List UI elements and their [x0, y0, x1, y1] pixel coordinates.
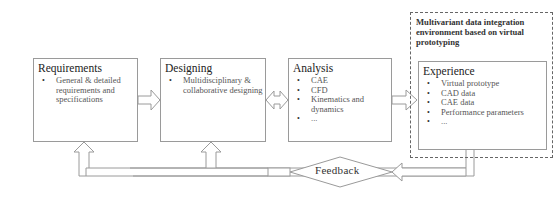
list-item: ...	[297, 114, 391, 124]
list-item: Kinematics and dynamics	[297, 95, 391, 114]
arrow-feedback-to-designing	[201, 142, 221, 168]
arrow-feedback-to-requirements	[74, 142, 94, 176]
experience-box: Experience Virtual prototype CAD data CA…	[418, 61, 547, 150]
arrow-requirements-to-designing	[138, 90, 160, 110]
analysis-box: Analysis CAE CFD Kinematics and dynamics…	[288, 58, 392, 142]
feedback-tail	[268, 168, 290, 176]
requirements-list: General & detailed requirements and spec…	[34, 76, 137, 105]
experience-title: Experience	[423, 65, 546, 78]
requirements-title: Requirements	[38, 62, 137, 75]
list-item: Multidisciplinary & collaborative design…	[169, 76, 265, 95]
list-item: ...	[427, 117, 546, 127]
feedback-label: Feedback	[315, 164, 360, 176]
requirements-box: Requirements General & detailed requirem…	[33, 58, 138, 142]
designing-list: Multidisciplinary & collaborative design…	[161, 76, 265, 95]
analysis-list: CAE CFD Kinematics and dynamics ...	[289, 76, 391, 124]
designing-box: Designing Multidisciplinary & collaborat…	[160, 58, 266, 142]
arrow-designing-analysis-bidirectional	[266, 91, 288, 109]
experience-list: Virtual prototype CAD data CAE data Perf…	[419, 79, 546, 127]
feedback-arrow-head	[392, 163, 466, 181]
designing-title: Designing	[165, 62, 265, 75]
analysis-title: Analysis	[293, 62, 391, 75]
environment-title: Multivariant data integration environmen…	[416, 17, 548, 47]
list-item: General & detailed requirements and spec…	[42, 76, 137, 105]
